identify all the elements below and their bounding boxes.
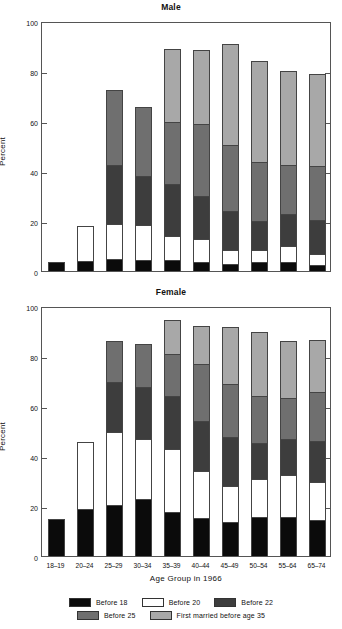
panel-female-yaxis-title: Percent xyxy=(0,422,7,451)
stacked-bar-figure: Male Percent 020406080100 Female Percent… xyxy=(0,0,342,629)
ytick-mark-male-40 xyxy=(42,173,47,174)
bar-segment-male-2-0 xyxy=(106,259,123,272)
xtick-label-45-49: 45–49 xyxy=(221,562,239,569)
bar-segment-female-6-4 xyxy=(222,327,239,383)
legend-item-4: First married before age 35 xyxy=(150,609,265,622)
legend-label-3: Before 25 xyxy=(104,612,136,619)
ytick-label-male-100: 100 xyxy=(26,20,38,27)
xtick-label-18-19: 18–19 xyxy=(47,562,65,569)
ytick-label-male-80: 80 xyxy=(30,70,38,77)
xtick-label-35-39: 35–39 xyxy=(163,562,181,569)
legend-item-1: Before 20 xyxy=(142,596,201,609)
plot-area-female: 020406080100 xyxy=(41,307,331,557)
bar-segment-female-6-3 xyxy=(222,384,239,438)
bar-segment-female-3-2 xyxy=(135,387,152,439)
ytick-mark-male-20 xyxy=(42,223,47,224)
bar-segment-male-8-4 xyxy=(280,71,297,165)
ytick-mark-female-60 xyxy=(42,408,47,409)
bar-segment-female-2-0 xyxy=(106,505,123,556)
bar-segment-male-2-3 xyxy=(106,90,123,165)
xtick-label-55-64: 55–64 xyxy=(279,562,297,569)
legend-swatch-before-20 xyxy=(142,598,164,607)
bar-segment-male-3-2 xyxy=(135,176,152,225)
ytick-label-female-0: 0 xyxy=(34,555,38,562)
bar-segment-male-2-1 xyxy=(106,224,123,259)
bar-male-35-39 xyxy=(164,49,181,272)
bar-male-18-19 xyxy=(48,262,65,271)
bar-segment-male-5-1 xyxy=(193,239,210,263)
bar-segment-female-2-3 xyxy=(106,341,123,382)
bar-male-65-74 xyxy=(309,74,326,272)
bar-segment-female-0-0 xyxy=(48,519,65,557)
bar-segment-female-3-3 xyxy=(135,344,152,387)
bar-segment-male-8-0 xyxy=(280,262,297,271)
bar-male-50-54 xyxy=(251,61,268,271)
bar-segment-male-6-2 xyxy=(222,211,239,250)
bar-segment-female-2-2 xyxy=(106,382,123,432)
bar-segment-male-5-3 xyxy=(193,124,210,197)
bar-male-20-24 xyxy=(77,226,94,271)
bar-segment-male-8-2 xyxy=(280,214,297,247)
ytick-mark-male-80 xyxy=(42,73,47,74)
legend-label-4: First married before age 35 xyxy=(177,612,265,619)
bar-segment-female-5-4 xyxy=(193,326,210,364)
bar-segment-female-7-2 xyxy=(251,443,268,479)
legend-swatch-before-25 xyxy=(77,611,99,620)
bar-segment-male-7-0 xyxy=(251,262,268,271)
bar-female-30-34 xyxy=(135,344,152,556)
legend-label-0: Before 18 xyxy=(96,599,128,606)
bar-segment-female-6-1 xyxy=(222,486,239,522)
bar-female-35-39 xyxy=(164,320,181,556)
bar-segment-male-3-1 xyxy=(135,225,152,260)
bar-male-55-64 xyxy=(280,71,297,271)
bar-segment-male-6-0 xyxy=(222,264,239,272)
bar-segment-male-6-3 xyxy=(222,145,239,211)
bar-segment-female-9-1 xyxy=(309,482,326,520)
bar-segment-male-4-4 xyxy=(164,49,181,123)
x-tick-labels: 18–1920–2425–2930–3435–3940–4445–4950–54… xyxy=(41,562,331,574)
bar-segment-male-3-0 xyxy=(135,260,152,271)
bar-segment-male-9-0 xyxy=(309,265,326,271)
legend-item-3: Before 25 xyxy=(77,609,136,622)
bar-segment-male-5-0 xyxy=(193,262,210,271)
ytick-mark-female-40 xyxy=(42,458,47,459)
bar-segment-female-4-1 xyxy=(164,449,181,513)
bar-segment-female-3-1 xyxy=(135,439,152,499)
bar-segment-female-6-0 xyxy=(222,522,239,556)
ytick-label-male-60: 60 xyxy=(30,120,38,127)
bar-segment-female-8-2 xyxy=(280,439,297,476)
bar-segment-male-8-1 xyxy=(280,246,297,262)
bar-female-25-29 xyxy=(106,341,123,556)
bar-segment-male-1-1 xyxy=(77,226,94,261)
xtick-label-40-44: 40–44 xyxy=(192,562,210,569)
legend-label-2: Before 22 xyxy=(241,599,273,606)
bar-segment-male-4-0 xyxy=(164,260,181,271)
xtick-label-30-34: 30–34 xyxy=(134,562,152,569)
bar-segment-female-1-0 xyxy=(77,509,94,557)
bar-segment-female-9-3 xyxy=(309,392,326,441)
legend-swatch-before-18 xyxy=(69,598,91,607)
bar-segment-female-9-0 xyxy=(309,520,326,556)
bar-segment-female-5-0 xyxy=(193,518,210,556)
bar-segment-female-8-1 xyxy=(280,475,297,517)
bar-segment-female-1-1 xyxy=(77,442,94,509)
bar-female-20-24 xyxy=(77,442,94,557)
bar-segment-male-4-3 xyxy=(164,122,181,183)
bar-male-45-49 xyxy=(222,44,239,272)
bar-segment-female-7-1 xyxy=(251,479,268,518)
bar-segment-male-9-1 xyxy=(309,254,326,265)
bar-segment-male-0-0 xyxy=(48,262,65,271)
ytick-label-female-100: 100 xyxy=(26,305,38,312)
bar-segment-female-7-0 xyxy=(251,517,268,556)
bar-segment-female-2-1 xyxy=(106,432,123,505)
bar-segment-male-6-1 xyxy=(222,250,239,264)
bar-segment-female-4-4 xyxy=(164,320,181,353)
legend-row-top: Before 18Before 20Before 22 xyxy=(0,596,342,609)
bar-segment-female-5-1 xyxy=(193,471,210,518)
plot-area-male: 020406080100 xyxy=(41,22,331,272)
bar-male-40-44 xyxy=(193,50,210,271)
ytick-label-female-40: 40 xyxy=(30,455,38,462)
bar-segment-female-3-0 xyxy=(135,499,152,557)
bar-segment-female-4-3 xyxy=(164,354,181,397)
bar-segment-female-8-0 xyxy=(280,517,297,556)
